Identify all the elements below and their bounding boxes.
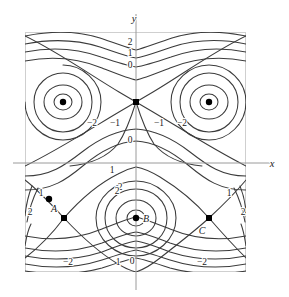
contour-label: −2 [197,257,207,267]
contour-label: 1 [128,48,133,58]
center-upper-right-marker [206,99,212,105]
point-label-a: A [50,203,58,214]
saddle-c-marker [206,215,212,221]
contour-label: −1 [110,118,120,128]
contour-label: −2 [63,257,73,267]
y-axis-label: y [131,13,137,24]
point-a-marker [46,196,52,202]
contour-label: −2 [87,118,97,128]
contour-plot-svg: y x 210−2−1−1−201212212−210−2 ABC [0,0,289,297]
contour-label: 0 [130,256,135,266]
point-label-b: B [143,213,149,224]
contour-label: 2 [28,207,33,217]
contour-label: 1 [116,257,121,267]
center-upper-left-marker [60,99,66,105]
saddle-lower-left-marker [61,215,67,221]
contour-label: 1 [39,188,44,198]
contour-label: 2 [128,37,133,47]
contour-figure: y x 210−2−1−1−201212212−210−2 ABC [0,0,289,297]
contour-label: 2 [115,186,120,196]
contour-label: 0 [128,135,133,145]
point-label-c: C [199,225,206,236]
center-b-marker [133,215,139,221]
saddle-upper-mid-marker [133,99,139,105]
contour-label: 1 [110,165,115,175]
x-axis-label: x [269,158,275,169]
contour-label: 1 [227,188,232,198]
contour-label: −1 [154,118,164,128]
contour-label: −2 [177,118,187,128]
contour-label: 0 [128,60,133,70]
contour-label: 2 [241,207,246,217]
